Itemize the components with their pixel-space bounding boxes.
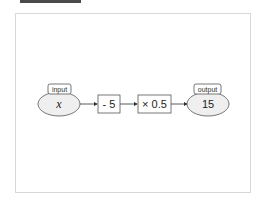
input-value: x: [55, 97, 62, 111]
step-1-label: - 5: [103, 98, 116, 110]
input-tag: input: [52, 86, 67, 94]
function-machine-diagram: input x - 5 × 0.5 output 15: [0, 0, 262, 202]
output-node: output 15: [187, 84, 229, 116]
output-tag: output: [198, 86, 218, 94]
step-multiply-box: × 0.5: [138, 95, 171, 113]
step-2-label: × 0.5: [142, 98, 167, 110]
step-subtract-box: - 5: [98, 95, 120, 113]
input-node: input x: [38, 84, 80, 116]
output-value: 15: [202, 98, 214, 110]
